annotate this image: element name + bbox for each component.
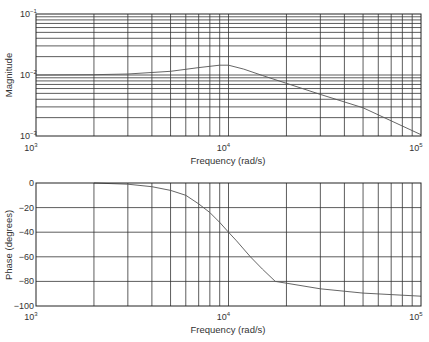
phase-x-tick-labels: 103104105 [24,311,423,322]
tick-label: 104 [217,142,231,153]
phase-y-tick-labels: 0−20−40−60−80−100 [14,178,34,311]
tick-label: 10−1 [20,8,38,19]
phase-grid [36,183,421,306]
bode-plot: 10−110−210−3 103104105 Frequency (rad/s)… [0,0,429,342]
tick-label: 10−3 [20,130,38,141]
tick-label: 105 [409,311,423,322]
tick-label: 0 [29,178,34,188]
tick-label: −100 [14,301,34,311]
phase-curve [94,183,421,296]
tick-label: −60 [19,252,34,262]
tick-label: 103 [24,142,38,153]
magnitude-y-axis-label: Magnitude [3,53,14,97]
tick-label: 10−2 [20,69,38,80]
phase-y-axis-label: Phase (degrees) [3,210,14,280]
tick-label: 103 [24,311,38,322]
magnitude-x-axis-label: Frequency (rad/s) [191,155,266,166]
magnitude-x-tick-labels: 103104105 [24,142,423,153]
tick-label: 105 [409,142,423,153]
tick-label: −20 [19,203,34,213]
tick-label: −80 [19,276,34,286]
tick-label: −40 [19,227,34,237]
magnitude-y-tick-labels: 10−110−210−3 [20,8,38,141]
phase-x-axis-label: Frequency (rad/s) [191,324,266,335]
tick-label: 104 [217,311,231,322]
